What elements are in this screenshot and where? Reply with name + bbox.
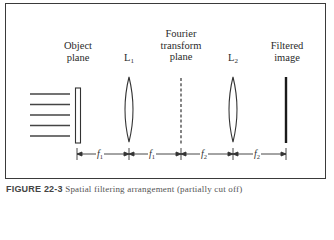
dimension-label-sub: 1 (152, 153, 155, 160)
filtered-image-label-line2: image (262, 52, 312, 64)
dimension-label-f2-right: f2 (253, 149, 261, 162)
fourier-plane-label-line3: plane (153, 51, 209, 63)
figure-caption-id: FIGURE 22-3 (6, 184, 63, 194)
figure-caption-text: Spatial filtering arrangement (partially… (65, 184, 242, 194)
dimension-label-sub: 2 (204, 153, 207, 160)
dimension-label-f1-right: f1 (148, 149, 156, 162)
lens-2-label-sub: 2 (234, 57, 238, 65)
dimension-label-f2-left: f2 (200, 149, 208, 162)
incoming-rays (30, 94, 70, 136)
dimension-label-sub: 2 (257, 153, 260, 160)
object-plane-label-line2: plane (55, 52, 101, 64)
object-plane-icon (76, 88, 81, 143)
dimension-label-sub: 1 (100, 153, 103, 160)
lens-1-icon (125, 77, 133, 142)
fourier-plane-label: Fourier transform plane (153, 28, 209, 63)
dimension-label-f1-left: f1 (96, 149, 104, 162)
lens-2-icon (229, 77, 237, 142)
fourier-plane-label-line2: transform (153, 40, 209, 52)
filtered-image-label-line1: Filtered (262, 40, 312, 52)
lens-1-label: L1 (117, 52, 141, 68)
lens-1-label-sub: 1 (130, 57, 134, 65)
object-plane-label-line1: Object (55, 40, 101, 52)
object-plane-label: Object plane (55, 40, 101, 63)
lens-2-label: L2 (221, 52, 245, 68)
figure-caption: FIGURE 22-3 Spatial filtering arrangemen… (6, 184, 243, 194)
fourier-plane-label-line1: Fourier (153, 28, 209, 40)
filtered-image-label: Filtered image (262, 40, 312, 63)
